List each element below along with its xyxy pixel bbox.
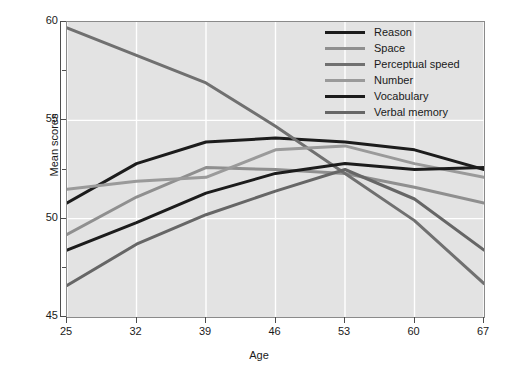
y-minor-tick-mark: [62, 70, 66, 71]
legend-item[interactable]: Number: [325, 72, 460, 88]
x-tick-label: 25: [46, 325, 86, 337]
legend-swatch: [325, 95, 365, 98]
legend-label: Perceptual speed: [374, 56, 460, 72]
line-chart: 45505560 25323946536067 Mean scores Age …: [0, 0, 518, 372]
x-tick-label: 32: [116, 325, 156, 337]
x-tick-label: 46: [255, 325, 295, 337]
x-tick-mark: [275, 317, 276, 323]
x-tick-mark: [414, 317, 415, 323]
legend-swatch: [325, 47, 365, 50]
x-tick-mark: [205, 317, 206, 323]
legend-swatch: [325, 111, 365, 114]
legend-label: Verbal memory: [374, 104, 448, 120]
y-tick-label: 45: [28, 309, 58, 321]
y-tick-label: 60: [28, 14, 58, 26]
legend-swatch: [325, 63, 365, 66]
legend-swatch: [325, 31, 365, 34]
legend-label: Space: [374, 40, 405, 56]
y-axis-line: [60, 21, 61, 316]
y-tick-label: 50: [28, 211, 58, 223]
x-tick-mark: [66, 317, 67, 323]
x-tick-label: 67: [463, 325, 503, 337]
legend-label: Reason: [374, 24, 412, 40]
legend-item[interactable]: Vocabulary: [325, 88, 460, 104]
x-tick-mark: [483, 317, 484, 323]
x-tick-label: 39: [185, 325, 225, 337]
x-tick-label: 60: [394, 325, 434, 337]
x-tick-label: 53: [324, 325, 364, 337]
legend-label: Vocabulary: [374, 88, 428, 104]
y-minor-tick-mark: [62, 169, 66, 170]
legend-item[interactable]: Verbal memory: [325, 104, 460, 120]
y-axis-title: Mean scores: [48, 85, 60, 205]
legend-item[interactable]: Perceptual speed: [325, 56, 460, 72]
x-axis-title: Age: [0, 349, 518, 361]
legend-label: Number: [374, 72, 413, 88]
legend-swatch: [325, 79, 365, 82]
legend-item[interactable]: Space: [325, 40, 460, 56]
x-tick-mark: [136, 317, 137, 323]
x-tick-mark: [344, 317, 345, 323]
legend-item[interactable]: Reason: [325, 24, 460, 40]
y-minor-tick-mark: [62, 267, 66, 268]
chart-legend: ReasonSpacePerceptual speedNumberVocabul…: [325, 24, 460, 120]
